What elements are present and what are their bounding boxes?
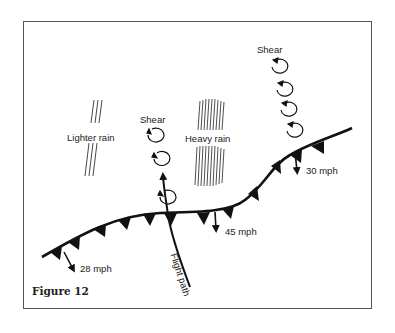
figure-caption: Figure 12 bbox=[32, 285, 89, 297]
shear-right-label: Shear bbox=[257, 45, 282, 55]
shear-vortices-left bbox=[147, 128, 176, 204]
wind-30-label: 30 mph bbox=[306, 166, 338, 176]
shear-left-label: Shear bbox=[140, 115, 165, 125]
wind-45-label: 45 mph bbox=[225, 227, 257, 237]
lighter-rain-label: Lighter rain bbox=[67, 133, 115, 143]
wind-arrows bbox=[64, 152, 297, 269]
shear-vortices-right bbox=[272, 58, 303, 137]
heavy-rain-label: Heavy rain bbox=[185, 134, 230, 144]
wind-28-label: 28 mph bbox=[80, 264, 112, 274]
